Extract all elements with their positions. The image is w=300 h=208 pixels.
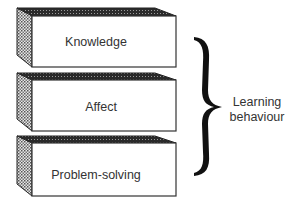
learning-label-line1: Learning [230, 95, 285, 110]
problem-solving-label: Problem-solving [51, 168, 141, 182]
block-side-face [17, 8, 32, 67]
block-side-face [17, 136, 32, 196]
block-top-face [17, 73, 176, 80]
block-top-face [17, 8, 176, 16]
learning-label-line2: behaviour [230, 110, 285, 125]
block-top-face [17, 136, 176, 143]
block-side-face [17, 73, 32, 131]
problem-solving-block [17, 136, 176, 196]
curly-brace [194, 37, 222, 176]
learning-behaviour-label: Learning behaviour [230, 95, 285, 125]
knowledge-label: Knowledge [65, 35, 127, 49]
affect-label: Affect [85, 100, 117, 114]
